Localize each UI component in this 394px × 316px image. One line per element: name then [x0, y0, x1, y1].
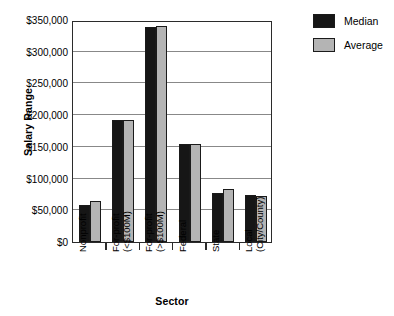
category-label-line1: For-profit	[143, 213, 154, 252]
x-axis-category-label: For-profit(<$100M)	[111, 211, 132, 252]
category-label-line2: (City/County)	[255, 197, 266, 252]
category-label-line1: Federal	[177, 220, 188, 252]
salary-range-bar-chart: Salary Range $0$50,000$100,000$150,000$2…	[0, 0, 394, 316]
x-axis-category-label: Local(City/County)	[244, 197, 265, 252]
x-axis-title: Sector	[72, 295, 272, 307]
category-label-line1: State	[210, 230, 221, 252]
chart-legend: MedianAverage	[313, 14, 393, 62]
legend-swatch-median	[313, 14, 335, 28]
category-label-line1: For-profit	[110, 213, 121, 252]
legend-item: Average	[313, 38, 393, 52]
legend-item: Median	[313, 14, 393, 28]
category-label-line1: Local	[243, 229, 254, 252]
category-label-line2: (>$100M)	[155, 211, 166, 252]
legend-label: Average	[344, 39, 383, 51]
category-label-line1: Nonprofit	[77, 213, 88, 252]
legend-label: Median	[344, 15, 378, 27]
x-axis-category-label: State	[211, 230, 222, 252]
x-axis-category-label: For-profit(>$100M)	[144, 211, 165, 252]
x-axis-category-label: Nonprofit	[78, 213, 89, 252]
category-label-line2: (<$100M)	[122, 211, 133, 252]
legend-swatch-average	[313, 38, 335, 52]
x-axis-category-label: Federal	[178, 220, 189, 252]
